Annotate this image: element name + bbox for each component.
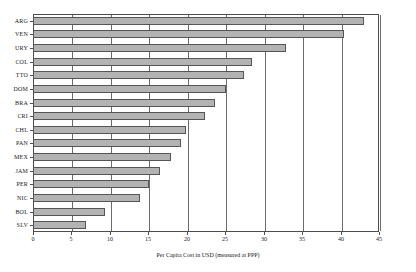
y-axis-tick [30,34,33,35]
bar-ven [33,30,344,38]
y-axis-tick-row: DOM [0,82,33,96]
y-axis-tick [30,184,33,185]
bar-row [33,164,379,178]
x-axis: 051015202530354045 [33,232,379,252]
y-axis-tick-row: BRA [0,96,33,110]
y-axis-tick-row: MEX [0,150,33,164]
y-axis-label-dom: DOM [13,86,28,92]
bar-dom [33,85,226,93]
x-axis-tick-label: 5 [70,236,73,242]
bar-row [33,96,379,110]
y-axis-label-chl: CHL [15,127,28,133]
x-axis-tick [379,232,380,235]
y-axis-labels: ARGVENURYCOLTTODOMBRACRICHLPANMEXJAMPERN… [0,14,33,232]
y-axis-tick-row: VEN [0,28,33,42]
y-axis-label-col: COL [15,59,28,65]
x-axis-tick-label: 45 [376,236,382,242]
y-axis-tick-row: JAM [0,164,33,178]
y-axis-tick-row: BOL [0,205,33,219]
y-axis-tick-row: TTO [0,69,33,83]
bar-row [33,137,379,151]
y-axis-label-mex: MEX [14,154,28,160]
x-axis-tick-label: 35 [299,236,305,242]
bar-bol [33,208,105,216]
y-axis-label-bol: BOL [15,209,28,215]
bar-row [33,28,379,42]
y-axis-tick [30,48,33,49]
y-axis-tick [30,212,33,213]
x-axis-tick-label: 0 [32,236,35,242]
bar-row [33,178,379,192]
bar-row [33,69,379,83]
y-axis-tick [30,198,33,199]
y-axis-tick [30,103,33,104]
bar-row [33,191,379,205]
bar-col [33,58,252,66]
x-axis-tick-label: 20 [184,236,190,242]
bar-row [33,205,379,219]
bar-row [33,14,379,28]
y-axis-tick [30,130,33,131]
x-axis-tick-label: 30 [261,236,267,242]
y-axis-tick-row: ARG [0,14,33,28]
y-axis-label-slv: SLV [17,222,28,228]
bar-row [33,123,379,137]
y-axis-label-arg: ARG [15,18,28,24]
bar-mex [33,153,171,161]
y-axis-label-ven: VEN [15,31,28,37]
bar-slv [33,221,86,229]
bar-pan [33,139,181,147]
x-axis-tick-label: 10 [107,236,113,242]
bars-layer [33,14,379,232]
y-axis-label-nic: NIC [17,195,28,201]
y-axis-tick [30,116,33,117]
x-axis-tick [225,232,226,235]
x-axis-tick [71,232,72,235]
y-axis-tick [30,21,33,22]
y-axis-tick-row: SLV [0,218,33,232]
x-axis-tick-label: 40 [338,236,344,242]
y-axis-tick [30,225,33,226]
bar-cri [33,112,205,120]
bar-tto [33,71,244,79]
y-axis-label-tto: TTO [16,72,28,78]
y-axis-tick [30,89,33,90]
bar-ury [33,44,286,52]
y-axis-tick-row: NIC [0,191,33,205]
x-axis-tick [33,232,34,235]
y-axis-label-ury: URY [15,45,28,51]
bar-row [33,41,379,55]
y-axis-label-pan: PAN [16,140,28,146]
y-axis-tick-row: URY [0,41,33,55]
x-axis-tick [110,232,111,235]
y-axis-tick [30,75,33,76]
bar-row [33,150,379,164]
y-axis-tick [30,143,33,144]
y-axis-tick-row: CRI [0,109,33,123]
x-axis-tick [187,232,188,235]
x-axis-title: Per Capita Cost in USD (measured at PPP) [0,252,416,258]
y-axis-tick [30,157,33,158]
x-axis-tick [148,232,149,235]
x-axis-tick-label: 25 [222,236,228,242]
bar-chart: ARGVENURYCOLTTODOMBRACRICHLPANMEXJAMPERN… [0,0,416,272]
bar-bra [33,99,215,107]
y-axis-tick-row: CHL [0,123,33,137]
y-axis-label-jam: JAM [15,168,28,174]
bar-row [33,55,379,69]
bar-nic [33,194,140,202]
bar-row [33,109,379,123]
bar-row [33,218,379,232]
y-axis-tick-row: PAN [0,137,33,151]
bar-chl [33,126,186,134]
bar-arg [33,17,364,25]
gridline [380,15,381,231]
x-axis-tick [264,232,265,235]
y-axis-tick-row: COL [0,55,33,69]
y-axis-label-bra: BRA [15,100,28,106]
y-axis-label-cri: CRI [17,113,28,119]
x-axis-tick-label: 15 [145,236,151,242]
bar-per [33,180,149,188]
x-axis-tick [302,232,303,235]
y-axis-tick-row: PER [0,178,33,192]
